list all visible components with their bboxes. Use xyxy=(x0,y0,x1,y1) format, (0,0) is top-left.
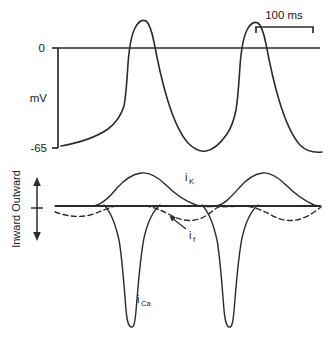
electrophysiology-figure: 0 -65 mV 100 ms Inward Outward i K i xyxy=(0,0,326,341)
inward-arrow-head xyxy=(33,232,41,241)
ik-label-subscript: K xyxy=(189,177,194,186)
mv-axis-label: mV xyxy=(30,92,48,104)
ik-label-base: i xyxy=(185,171,187,183)
ik-label: i K xyxy=(185,171,194,186)
time-scale-bar xyxy=(256,27,313,33)
ica-label: i Ca xyxy=(137,293,151,308)
if-current-trace xyxy=(55,206,321,221)
if-label-base: i xyxy=(189,229,191,241)
ica-label-subscript: Ca xyxy=(141,299,151,308)
mv-tick-label-zero: 0 xyxy=(39,42,45,54)
if-label-subscript: f xyxy=(193,235,196,244)
ica-label-base: i xyxy=(137,293,139,305)
mv-tick-label-minus65: -65 xyxy=(30,142,47,154)
ik-current-trace xyxy=(55,173,321,207)
figure-container: 0 -65 mV 100 ms Inward Outward i K i xyxy=(0,0,326,341)
outward-arrow-head xyxy=(33,177,41,186)
action-potential-trace xyxy=(61,20,322,152)
scale-bar-label: 100 ms xyxy=(265,9,303,21)
if-label: i f xyxy=(189,229,196,244)
ica-current-trace-2 xyxy=(202,205,258,327)
inward-outward-axis-label: Inward Outward xyxy=(10,170,22,248)
ica-current-trace-1 xyxy=(104,205,160,327)
if-label-leader-line xyxy=(172,218,186,229)
